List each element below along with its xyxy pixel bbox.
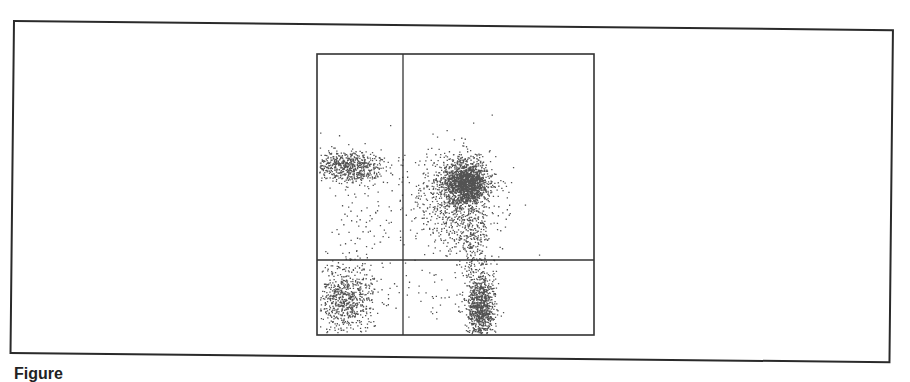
figure-caption: Figure xyxy=(14,366,63,382)
scatter-points xyxy=(319,115,540,335)
scatter-point-cloud xyxy=(319,115,540,335)
plot-area-border xyxy=(317,54,594,335)
